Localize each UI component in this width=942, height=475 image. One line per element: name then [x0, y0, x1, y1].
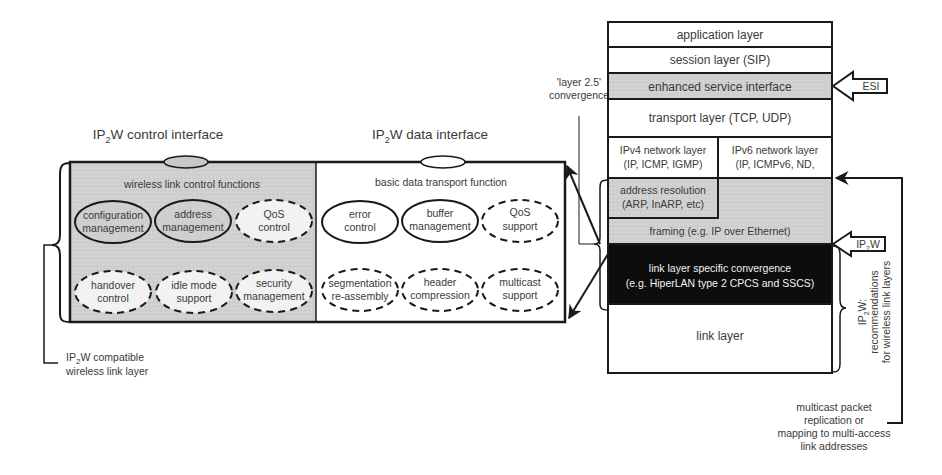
data-function-segmentation-reassembly: segmentation re-assembly [322, 269, 398, 311]
right-brace [833, 246, 846, 372]
data-heading: basic data transport function [375, 176, 507, 188]
svg-text:buffer: buffer [427, 207, 454, 219]
svg-text:support: support [502, 289, 537, 301]
framing-label: framing (e.g. IP over Ethernet) [649, 225, 790, 237]
data-interface-title: IP2W data interface [372, 127, 488, 145]
svg-text:(ARP, InARP, etc): (ARP, InARP, etc) [622, 198, 704, 210]
svg-text:multicast: multicast [499, 276, 541, 288]
control-function-security-management: security management [236, 270, 312, 312]
svg-text:support: support [176, 292, 211, 304]
svg-text:QoS: QoS [263, 208, 284, 220]
compatible-label-line1: IP2W compatible [66, 351, 144, 366]
data-port-icon [421, 156, 465, 168]
control-function-configuration-management: configuration management [75, 201, 151, 243]
svg-text:error: error [349, 208, 372, 220]
svg-text:management: management [409, 220, 470, 232]
svg-text:application layer: application layer [677, 28, 764, 42]
svg-text:management: management [82, 222, 143, 234]
svg-text:header: header [424, 276, 457, 288]
data-function-multicast-support: multicast support [482, 269, 558, 311]
control-port-icon [164, 156, 208, 168]
svg-text:control: control [258, 221, 290, 233]
control-function-idle-mode-support: idle mode support [156, 271, 232, 313]
data-function-qos-support: QoS support [482, 200, 558, 242]
svg-text:control: control [97, 292, 129, 304]
recommendations-label: IP2W: recommendations for wireless link … [856, 261, 892, 364]
svg-text:multicast packet: multicast packet [796, 401, 871, 413]
data-function-buffer-management: buffer management [402, 200, 478, 242]
svg-text:transport layer (TCP, UDP): transport layer (TCP, UDP) [649, 111, 791, 125]
svg-text:compression: compression [410, 289, 470, 301]
svg-text:recommendations: recommendations [868, 270, 880, 353]
control-function-handover-control: handover control [75, 271, 151, 313]
svg-text:'layer 2.5': 'layer 2.5' [557, 76, 601, 88]
svg-text:IPv4 network layer: IPv4 network layer [620, 144, 707, 156]
control-interface-title: IP2W control interface [93, 127, 223, 145]
left-brace [52, 163, 70, 322]
svg-text:link layer: link layer [696, 329, 743, 343]
svg-text:ESI: ESI [863, 80, 880, 92]
svg-text:link layer specific convergenc: link layer specific convergence [649, 262, 792, 274]
svg-text:security: security [256, 277, 293, 289]
svg-text:control: control [344, 221, 376, 233]
svg-text:handover: handover [91, 279, 135, 291]
svg-text:link addresses: link addresses [800, 440, 867, 452]
control-function-qos-control: QoS control [236, 200, 312, 242]
control-heading: wireless link control functions [123, 178, 260, 190]
svg-text:(e.g. HiperLAN type 2 CPCS and: (e.g. HiperLAN type 2 CPCS and SSCS) [626, 277, 815, 289]
svg-text:configuration: configuration [83, 209, 143, 221]
svg-text:mapping to multi-access: mapping to multi-access [777, 427, 890, 439]
ip2w-interfaces-block: IP2W control interface IP2W data interfa… [44, 127, 565, 377]
svg-text:re-assembly: re-assembly [331, 290, 389, 302]
control-function-address-management: address management [155, 200, 231, 242]
ip2w-arrow-icon: IP2W [833, 232, 885, 256]
svg-text:management: management [162, 221, 223, 233]
data-function-error-control: error control [322, 201, 398, 243]
compatible-label-line2: wireless link layer [65, 365, 149, 377]
svg-text:convergence: convergence [549, 89, 609, 101]
svg-text:QoS: QoS [509, 206, 530, 218]
svg-text:address: address [174, 208, 211, 220]
svg-text:(IP, ICMPv6, ND,: (IP, ICMPv6, ND, [735, 158, 814, 170]
multicast-note: multicast packet replication or mapping … [777, 401, 890, 452]
svg-text:support: support [502, 220, 537, 232]
svg-text:session layer (SIP): session layer (SIP) [670, 53, 771, 67]
esi-arrow-icon: ESI [833, 72, 887, 100]
svg-text:IPv6 network layer: IPv6 network layer [732, 144, 819, 156]
ip2w-architecture-diagram: IP2W control interface IP2W data interfa… [0, 0, 942, 475]
svg-text:segmentation: segmentation [328, 277, 391, 289]
svg-text:(IP, ICMP, IGMP): (IP, ICMP, IGMP) [624, 158, 703, 170]
svg-text:replication or: replication or [804, 414, 865, 426]
svg-text:for wireless link layers: for wireless link layers [880, 261, 892, 364]
svg-text:idle mode: idle mode [171, 279, 217, 291]
link-layer-specific-convergence [608, 244, 832, 304]
protocol-stack: application layer session layer (SIP) en… [608, 22, 832, 373]
svg-text:management: management [243, 290, 304, 302]
svg-text:address resolution: address resolution [620, 184, 706, 196]
svg-text:enhanced service interface: enhanced service interface [648, 80, 792, 94]
data-function-header-compression: header compression [402, 269, 478, 311]
